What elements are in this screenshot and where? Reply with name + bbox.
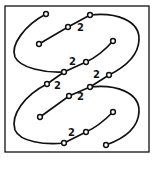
node-circle-icon [84,60,89,65]
node-circle-icon [66,25,71,30]
lower-loop-curve [14,84,64,144]
crossing-label: 2 [77,22,84,33]
node-circle-icon [111,39,116,44]
lower-right-loop-curve [90,86,139,145]
knot-diagram: 222222 [0,0,156,171]
node-circle-icon [62,70,67,75]
node-circle-icon [111,110,116,115]
path-nodes [37,12,116,148]
node-circle-icon [107,73,112,78]
node-circle-icon [45,82,50,87]
node-circle-icon [37,42,42,47]
upper-diag-curve [47,41,113,84]
crossing-label: 2 [93,69,100,80]
crossing-label: 2 [68,127,75,138]
node-circle-icon [88,85,93,90]
node-circle-icon [38,115,43,120]
curve-paths [14,14,139,145]
crossing-label: 2 [77,91,84,102]
node-circle-icon [104,143,109,148]
node-circle-icon [62,141,67,146]
upper-right-loop-curve [90,14,139,75]
node-circle-icon [84,130,89,135]
node-circle-icon [88,13,93,18]
node-circle-icon [67,94,72,99]
node-circle-icon [44,12,49,17]
crossing-label: 2 [54,80,61,91]
crossing-labels: 222222 [54,22,100,138]
crossing-label: 2 [69,56,76,67]
